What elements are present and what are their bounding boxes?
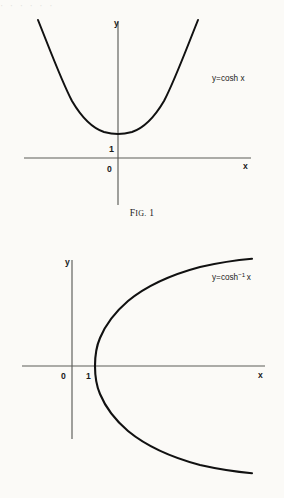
figure-1-x-axis-label: x [243,161,248,171]
figure-1-y-axis-label: y [114,18,119,28]
figure-1-origin-label: 0 [107,164,112,174]
figure-2-origin-label: 0 [61,371,66,381]
figure-2-curve-label-exponent: −1 [238,271,246,278]
figure-1-caption: FIG. 1 [0,208,284,218]
figure-2-curve-label: y=cosh−1x [212,271,251,282]
figure-page: · · · · · · y=cosh x 1 0 y x FIG. 1 [0,0,284,498]
figure-1-caption-smallcaps: IG. [135,209,146,218]
figure-1-plot: y=cosh x 1 0 y x [0,0,284,232]
figure-2-y-axis-label: y [65,257,70,267]
figure-2-curve-lower-branch [95,366,252,473]
figure-2: y=cosh−1x 0 1 y x FIG. 2 [0,245,284,498]
figure-2-x-axis-label: x [258,370,263,380]
figure-2-curve-label-tail: x [247,273,251,282]
figure-2-tick-label-one: 1 [86,371,91,381]
figure-1-tick-label-one: 1 [109,144,114,154]
figure-1: y=cosh x 1 0 y x FIG. 1 [0,0,284,232]
figure-1-curve-label: y=cosh x [212,74,245,83]
figure-1-caption-number: 1 [149,208,154,218]
figure-2-plot: y=cosh−1x 0 1 y x [0,245,284,498]
figure-2-curve-label-base: y=cosh [212,273,239,282]
